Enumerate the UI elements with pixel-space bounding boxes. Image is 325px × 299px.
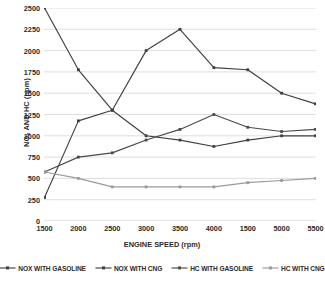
series-polyline [45,29,316,197]
legend-item[interactable]: HC WITH CNG [262,264,325,272]
y-axis-tick-label: 1500 [24,89,40,98]
data-point-marker [212,66,215,69]
series-polyline [45,172,316,187]
data-point-marker [280,92,283,95]
data-point-marker [145,49,148,52]
legend-item[interactable]: NOX WITH GASOLINE [0,264,86,272]
legend-marker-icon [171,264,188,272]
series-line [44,113,316,173]
legend-item-label: NOX WITH GASOLINE [18,265,86,272]
y-axis-tick-label: 500 [28,174,40,183]
data-point-marker [314,134,316,137]
data-point-marker [314,102,316,105]
series-line [44,28,316,199]
y-axis-tick-label: 2000 [24,46,40,55]
data-point-marker [179,139,182,142]
data-point-marker [111,109,114,112]
x-axis-tick-label: 2500 [104,224,120,233]
plot-area [44,8,316,221]
x-axis-tick-label: 2000 [70,224,86,233]
legend-marker-icon [95,264,112,272]
data-point-marker [246,181,249,184]
legend-item[interactable]: HC WITH GASOLINE [171,264,253,272]
y-axis-tick-label: 250 [28,195,40,204]
y-axis-tick-label: 2250 [24,25,40,34]
data-point-marker [77,68,80,71]
legend-marker-icon [262,264,279,272]
x-axis-tick-label: 3500 [172,224,188,233]
y-axis-tick-label: 2500 [24,4,40,13]
data-point-marker [280,179,283,182]
data-point-marker [246,139,249,142]
data-point-marker [179,128,182,131]
data-point-marker [44,196,46,199]
data-point-marker [77,177,80,180]
data-point-marker [145,134,148,137]
data-point-marker [44,171,46,174]
data-point-marker [77,156,80,159]
x-axis-tick-label: 5500 [307,224,323,233]
x-axis-tick-labels: 150020002500300035004000150050005500 [44,224,316,238]
series-line [44,171,316,189]
legend-item-label: NOX WITH CNG [114,265,162,272]
legend-marker-icon [0,264,16,272]
y-axis-tick-label: 1750 [24,67,40,76]
data-point-marker [77,119,80,122]
data-point-marker [212,113,215,116]
data-point-marker [280,134,283,137]
data-point-marker [145,139,148,142]
data-point-marker [111,186,114,189]
chart-legend: NOX WITH GASOLINENOX WITH CNGHC WITH GAS… [0,264,324,272]
y-axis-tick-label: 1250 [24,110,40,119]
data-point-marker [212,145,215,148]
legend-item[interactable]: NOX WITH CNG [95,264,162,272]
data-point-marker [44,8,46,9]
legend-item-label: HC WITH GASOLINE [190,265,253,272]
x-axis-tick-label: 5000 [274,224,290,233]
data-point-marker [246,68,249,71]
x-axis-tick-label: 3000 [138,224,154,233]
y-axis-tick-label: 1000 [24,131,40,140]
data-point-marker [314,128,316,131]
data-point-marker [179,186,182,189]
data-point-marker [212,186,215,189]
data-point-marker [111,151,114,154]
data-point-marker [246,126,249,129]
data-point-marker [145,186,148,189]
series-polyline [45,115,316,173]
y-axis-tick-labels: 02505007501000125015001750200022502500 [12,0,40,228]
legend-item-label: HC WITH CNG [281,265,325,272]
x-axis-tick-label: 1500 [240,224,256,233]
x-axis-title: ENGINE SPEED (rpm) [0,240,324,249]
data-point-marker [280,130,283,133]
data-point-marker [179,28,182,31]
gridlines [44,8,316,221]
x-axis-tick-label: 1500 [36,224,52,233]
x-axis-tick-label: 4000 [206,224,222,233]
y-axis-tick-label: 750 [28,153,40,162]
plot-svg [44,8,316,221]
data-point-marker [314,177,316,180]
